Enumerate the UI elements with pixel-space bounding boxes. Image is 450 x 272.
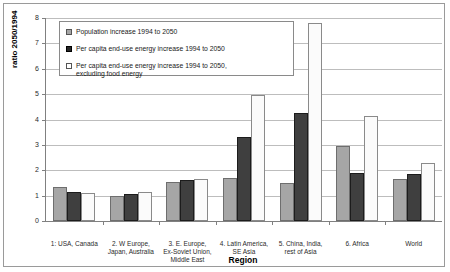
y-axis-tick-label: 8 xyxy=(24,14,39,21)
bar xyxy=(110,196,124,221)
x-axis-tick xyxy=(385,221,386,225)
bar xyxy=(124,194,138,221)
legend-swatch xyxy=(66,63,72,69)
bar xyxy=(223,178,237,221)
y-axis-tick xyxy=(42,221,46,222)
y-axis-tick-label: 1 xyxy=(24,192,39,199)
bar xyxy=(308,23,322,221)
legend: Population increase 1994 to 2050Per capi… xyxy=(59,21,294,76)
bar xyxy=(336,146,350,221)
bar xyxy=(237,137,251,221)
bar xyxy=(180,180,194,221)
y-axis-tick-label: 4 xyxy=(24,116,39,123)
x-axis-tick xyxy=(272,221,273,225)
legend-label: Population increase 1994 to 2050 xyxy=(76,28,177,36)
y-axis-tick-label: 3 xyxy=(24,141,39,148)
bar-group xyxy=(385,18,442,221)
bar xyxy=(421,163,435,221)
bar xyxy=(251,95,265,221)
bar xyxy=(350,173,364,221)
x-axis-tick xyxy=(329,221,330,225)
legend-label: Per capita end-use energy increase 1994 … xyxy=(76,62,227,78)
bar xyxy=(393,179,407,221)
bar xyxy=(53,187,67,221)
legend-swatch xyxy=(66,46,72,52)
bar xyxy=(81,193,95,221)
bar xyxy=(407,174,421,221)
bar xyxy=(67,192,81,221)
bar xyxy=(138,192,152,221)
bar xyxy=(280,183,294,221)
y-axis-tick-label: 5 xyxy=(24,90,39,97)
x-axis-category-label: World xyxy=(377,240,450,248)
y-axis-tick-label: 2 xyxy=(24,166,39,173)
bar-group xyxy=(329,18,386,221)
bar xyxy=(364,116,378,221)
legend-swatch xyxy=(66,29,72,35)
chart-frame: ratio 2050/1994 012345678 1: USA, Canada… xyxy=(3,3,445,267)
legend-label: Per capita end-use energy increase 1994 … xyxy=(76,45,225,53)
y-axis-tick-label: 0 xyxy=(24,217,39,224)
x-axis-title: Region xyxy=(45,255,441,265)
y-axis-title: ratio 2050/1994 xyxy=(10,0,19,68)
bar xyxy=(166,182,180,221)
bar xyxy=(294,113,308,221)
x-axis-tick xyxy=(216,221,217,225)
x-axis-tick xyxy=(103,221,104,225)
y-axis-tick-label: 6 xyxy=(24,65,39,72)
x-axis-tick xyxy=(159,221,160,225)
y-axis-tick-label: 7 xyxy=(24,39,39,46)
bar xyxy=(194,179,208,221)
